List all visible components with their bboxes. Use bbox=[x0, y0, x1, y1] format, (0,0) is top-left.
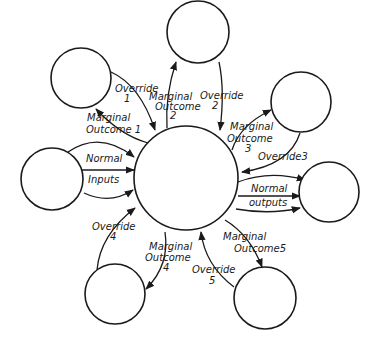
node-right[interactable] bbox=[299, 162, 359, 222]
label-override-5-num: 5 bbox=[209, 275, 215, 286]
label-normal-outputs-1: Normal bbox=[251, 183, 288, 194]
node-bottom-right[interactable] bbox=[234, 267, 296, 329]
label-override-4-num: 4 bbox=[110, 231, 116, 242]
label-override-1-num: 1 bbox=[124, 93, 130, 104]
diagram-canvas: Override 1 Marginal Outcome 1 Marginal O… bbox=[0, 0, 376, 345]
label-normal-inputs-1: Normal bbox=[86, 153, 123, 164]
node-left[interactable] bbox=[21, 148, 83, 210]
label-override-3: Override3 bbox=[258, 151, 308, 162]
node-top-left[interactable] bbox=[51, 48, 111, 108]
label-override-2: Override bbox=[200, 90, 243, 101]
label-marginal-4-c: 4 bbox=[163, 262, 169, 273]
label-marginal-5-b: Outcome5 bbox=[234, 243, 286, 254]
label-marginal-4: Marginal bbox=[149, 241, 192, 252]
edge-normal-output-c bbox=[236, 208, 300, 212]
label-override-2-num: 2 bbox=[212, 100, 218, 111]
label-marginal-3-c: 3 bbox=[245, 143, 251, 154]
label-marginal-5: Marginal bbox=[223, 231, 266, 242]
node-top-right[interactable] bbox=[271, 72, 331, 132]
nodes bbox=[21, 1, 359, 329]
label-marginal-1-b: Outcome 1 bbox=[86, 124, 141, 135]
label-normal-outputs-2: outputs bbox=[249, 197, 287, 208]
diagram-svg: Override 1 Marginal Outcome 1 Marginal O… bbox=[0, 0, 376, 345]
label-normal-inputs-2: Inputs bbox=[88, 174, 119, 185]
label-marginal-2-b: Outcome bbox=[155, 101, 201, 112]
central-process-node[interactable] bbox=[134, 126, 238, 230]
label-override-5: Override bbox=[192, 264, 235, 275]
edge-normal-output-a bbox=[238, 175, 305, 182]
node-bottom-left[interactable] bbox=[85, 264, 145, 324]
node-top[interactable] bbox=[167, 1, 229, 63]
edge-normal-input-c bbox=[84, 190, 133, 198]
label-marginal-2-c: 2 bbox=[170, 110, 176, 121]
label-marginal-1: Marginal bbox=[87, 112, 130, 123]
label-marginal-3: Marginal bbox=[230, 121, 273, 132]
